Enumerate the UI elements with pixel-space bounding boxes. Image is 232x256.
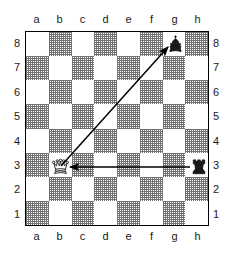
file-label-top-c: c	[76, 14, 90, 25]
rank-label-left-1: 1	[8, 209, 20, 220]
file-label-bottom-b: b	[53, 231, 67, 242]
file-label-bottom-h: h	[191, 231, 205, 242]
rank-label-right-6: 6	[213, 87, 225, 98]
board-pieces	[26, 32, 208, 225]
rank-label-right-3: 3	[213, 160, 225, 171]
file-label-top-f: f	[145, 14, 159, 25]
rank-label-right-5: 5	[213, 111, 225, 122]
rank-label-right-8: 8	[213, 38, 225, 49]
file-label-top-b: b	[53, 14, 67, 25]
file-label-top-h: h	[191, 14, 205, 25]
rank-label-left-8: 8	[8, 38, 20, 49]
file-label-bottom-c: c	[76, 231, 90, 242]
rank-label-left-6: 6	[8, 87, 20, 98]
chess-board[interactable]	[25, 31, 209, 226]
rank-label-left-7: 7	[8, 62, 20, 73]
file-label-bottom-e: e	[122, 231, 136, 242]
black-king-piece[interactable]	[164, 32, 187, 56]
rank-label-right-1: 1	[213, 209, 225, 220]
file-label-bottom-g: g	[168, 231, 182, 242]
chess-diagram: a b c d e f g h a b c d e f g h 8 7 6 5 …	[0, 0, 232, 256]
file-label-top-g: g	[168, 14, 182, 25]
file-label-top-d: d	[99, 14, 113, 25]
black-rook-piece[interactable]	[187, 154, 210, 178]
file-label-bottom-f: f	[145, 231, 159, 242]
file-label-bottom-a: a	[30, 231, 44, 242]
rank-label-right-2: 2	[213, 184, 225, 195]
white-queen-piece[interactable]	[49, 154, 72, 178]
rank-label-right-7: 7	[213, 62, 225, 73]
file-label-top-a: a	[30, 14, 44, 25]
file-label-top-e: e	[122, 14, 136, 25]
file-label-bottom-d: d	[99, 231, 113, 242]
rank-label-left-3: 3	[8, 160, 20, 171]
rank-label-left-4: 4	[8, 136, 20, 147]
rank-label-left-5: 5	[8, 111, 20, 122]
rank-label-right-4: 4	[213, 136, 225, 147]
rank-label-left-2: 2	[8, 184, 20, 195]
